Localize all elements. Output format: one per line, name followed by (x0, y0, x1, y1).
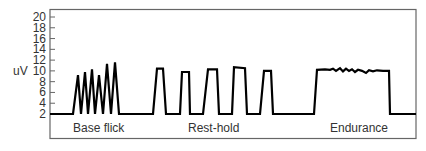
emg-trace (50, 62, 416, 114)
y-axis-title: uV (13, 64, 28, 78)
segment-label-endurance: Endurance (330, 121, 388, 135)
segment-label-rest-hold: Rest-hold (188, 121, 239, 135)
emg-chart: 2468101214161820 uV Base flick Rest-hold… (0, 0, 426, 151)
segment-label-base-flick: Base flick (73, 121, 125, 135)
y-axis: 2468101214161820 (33, 10, 55, 121)
y-tick-label: 20 (33, 10, 47, 24)
